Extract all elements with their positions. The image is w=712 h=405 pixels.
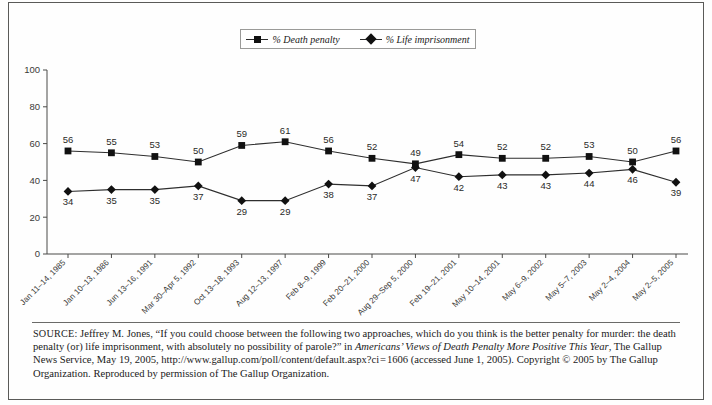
data-value-label: 61 <box>280 125 291 136</box>
x-category-label: Jan 10–13, 1986 <box>61 258 111 308</box>
x-category-label: May 2–4, 2004 <box>587 258 632 303</box>
data-point-marker <box>195 159 202 166</box>
x-category-label: Feb 8–9, 1999 <box>284 258 328 302</box>
x-category-label: May 10–14, 2001 <box>451 258 502 309</box>
source-note-divider <box>32 322 680 323</box>
data-value-label: 56 <box>671 134 682 145</box>
data-point-marker <box>194 182 203 191</box>
data-value-label: 37 <box>367 191 378 202</box>
data-point-marker <box>586 153 593 160</box>
data-value-label: 50 <box>193 145 204 156</box>
y-tick-label: 100 <box>24 64 40 75</box>
data-point-marker <box>541 170 550 179</box>
data-value-label: 29 <box>236 206 247 217</box>
chart-page: % Death penalty % Life imprisonment 0204… <box>0 0 712 405</box>
data-value-label: 43 <box>540 180 551 191</box>
data-value-label: 52 <box>540 141 551 152</box>
data-point-marker <box>238 142 245 149</box>
x-category-label: Jan 11–14, 1985 <box>18 258 67 307</box>
x-axis-category-labels: Jan 11–14, 1985Jan 10–13, 1986Jun 13–16,… <box>18 258 675 317</box>
y-tick-label: 20 <box>29 212 40 223</box>
data-value-label: 37 <box>193 191 204 202</box>
data-point-marker <box>499 155 506 162</box>
data-point-marker <box>65 148 72 155</box>
data-value-label: 54 <box>454 138 465 149</box>
data-point-marker <box>368 182 377 191</box>
y-axis-tick-labels: 020406080100 <box>24 64 40 259</box>
source-note: SOURCE: Jeffrey M. Jones, “If you could … <box>33 327 683 380</box>
data-value-label: 49 <box>410 147 421 158</box>
data-value-label: 35 <box>106 195 117 206</box>
data-point-marker <box>64 187 73 196</box>
chart-axes <box>43 70 688 258</box>
data-point-marker <box>151 153 158 160</box>
data-point-marker <box>108 149 115 156</box>
data-value-label: 39 <box>671 187 682 198</box>
data-point-marker <box>498 170 507 179</box>
data-value-label: 53 <box>150 139 161 150</box>
data-point-marker <box>454 172 463 181</box>
source-keyword: SOURCE: <box>33 328 77 339</box>
x-category-label: Jun 13–16, 1991 <box>105 258 155 308</box>
data-point-marker <box>673 148 680 155</box>
data-point-marker <box>585 169 594 178</box>
line-chart: 020406080100 565553505961565249545252535… <box>0 0 712 330</box>
data-value-label: 56 <box>323 134 334 145</box>
data-point-marker <box>324 180 333 189</box>
y-tick-label: 0 <box>35 248 40 259</box>
data-point-marker <box>672 178 681 187</box>
data-value-label: 52 <box>497 141 508 152</box>
data-point-marker <box>150 185 159 194</box>
data-point-marker <box>542 155 549 162</box>
data-point-marker <box>325 148 332 155</box>
data-value-label: 35 <box>150 195 161 206</box>
data-point-marker <box>455 151 462 158</box>
data-value-label: 56 <box>63 134 74 145</box>
data-value-label: 29 <box>280 206 291 217</box>
data-value-label: 59 <box>236 128 247 139</box>
data-point-marker <box>281 196 290 205</box>
x-category-label: May 2–5, 2005 <box>631 258 676 303</box>
x-category-label: May 6–9, 2002 <box>500 258 545 303</box>
x-category-label: Oct 13–18, 1993 <box>192 258 241 307</box>
y-tick-label: 80 <box>29 101 40 112</box>
source-italic-title: Americans’ Views of Death Penalty More P… <box>355 341 609 352</box>
data-point-marker <box>369 155 376 162</box>
data-point-marker <box>107 185 116 194</box>
data-value-label: 42 <box>454 182 465 193</box>
data-value-label: 43 <box>497 180 508 191</box>
data-value-label: 52 <box>367 141 378 152</box>
data-point-marker <box>237 196 246 205</box>
data-point-marker <box>282 138 289 145</box>
y-tick-label: 40 <box>29 175 40 186</box>
data-value-label: 46 <box>627 174 638 185</box>
y-tick-label: 60 <box>29 138 40 149</box>
x-category-label: May 5–7, 2003 <box>544 258 589 303</box>
data-value-label: 44 <box>584 178 595 189</box>
data-value-label: 50 <box>627 145 638 156</box>
data-value-label: 38 <box>323 189 334 200</box>
data-value-label: 55 <box>106 136 117 147</box>
data-point-marker <box>629 159 636 166</box>
data-point-marker <box>628 165 637 174</box>
x-category-label: Feb 19–21, 2001 <box>408 258 458 308</box>
data-value-label: 53 <box>584 139 595 150</box>
data-value-label: 47 <box>410 173 421 184</box>
data-value-label: 34 <box>63 196 74 207</box>
x-category-label: Aug 12–13, 1997 <box>234 258 285 309</box>
x-category-label: Feb 20–21, 2000 <box>321 258 371 308</box>
